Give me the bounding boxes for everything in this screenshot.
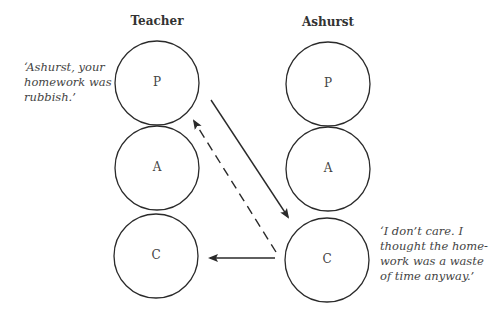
ashurst-quote: ‘I don’t care. I thought the home- work … [380, 224, 500, 284]
teacher-column-title: Teacher [107, 14, 207, 28]
teacher-adult-label: A [147, 160, 167, 174]
ashurst-child-label: C [317, 252, 337, 266]
teacher-parent-label: P [147, 75, 167, 89]
ashurst-adult-label: A [318, 161, 338, 175]
expected-response-dashed-arrow [194, 121, 276, 252]
teacher-child-label: C [146, 248, 166, 262]
ashurst-parent-label: P [318, 76, 338, 90]
diagram-canvas: Teacher Ashurst P A C P A C ‘Ashurst, yo… [0, 0, 503, 315]
ashurst-column-title: Ashurst [278, 15, 378, 29]
stimulus-arrow [211, 100, 288, 217]
teacher-quote: ‘Ashurst, your homework was rubbish.’ [24, 60, 114, 105]
